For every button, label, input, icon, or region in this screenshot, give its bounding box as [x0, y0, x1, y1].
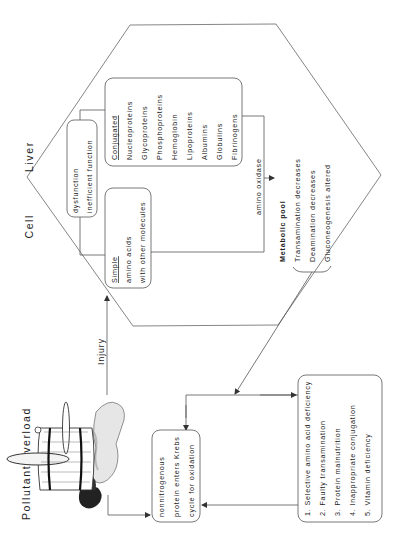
simple-line-2: with other molecules: [138, 201, 147, 284]
inefficient-function-text: inefficient function: [85, 140, 94, 213]
metabolic-pool-item: Transamination decreases: [293, 158, 302, 262]
conjugated-item: Phosphoproteins: [155, 94, 164, 160]
deficiency-item: 4. Inappropriate conjugation: [348, 404, 357, 516]
dysfunction-text: dysfunction: [71, 168, 80, 213]
metabolic-pool-bracket: [293, 266, 331, 272]
conjugated-item: Glycoproteins: [140, 106, 149, 160]
cell-label: Cell: [23, 214, 35, 239]
diagram-canvas: Liver Cell dysfunction inefficient funct…: [0, 0, 400, 534]
dysfunction-to-conjugated-connector: [80, 110, 106, 120]
deficiency-item: 2. Faulty transamination: [318, 420, 327, 516]
deficiency-item: 1. Selective amino acid deficiency: [303, 381, 312, 516]
krebs-line-3: cycle for oxidation: [187, 444, 196, 517]
krebs-line-1: nonnitrogenous: [157, 456, 166, 517]
dysfunction-to-simple-connector: [80, 217, 106, 255]
liver-label: Liver: [23, 141, 35, 172]
deficiency-item: 3. Protein malnutrition: [333, 428, 342, 516]
conjugated-heading: Conjugated: [110, 115, 119, 160]
liver-cell-label: Liver Cell: [23, 141, 35, 238]
deficiency-item: 5. Vitamin deficiency: [363, 433, 372, 516]
injury-label: Injury: [96, 338, 106, 365]
junction-connector: [186, 395, 300, 418]
barrel-to-krebs-arrow: [108, 495, 150, 515]
krebs-line-2: protein enters Krebs: [172, 436, 181, 517]
conjugated-item: Albumins: [200, 124, 209, 160]
conjugated-item: Nucleoproteins: [125, 101, 134, 160]
metabolic-pool-heading: Metabolic pool: [278, 200, 287, 262]
pool-to-junction-arrow: [235, 272, 312, 394]
conjugated-item: Fibrinogens: [230, 114, 239, 160]
conjugated-item: Lipoproteins: [185, 111, 194, 160]
simple-line-1: amino acids: [124, 236, 133, 283]
conjugated-item: Hemoglobin: [170, 114, 179, 160]
metabolic-pool-item: Deamination decreases: [308, 170, 317, 262]
metabolic-pool-item: Gluconeogenesis altered: [323, 164, 332, 262]
amino-oxidase-label: amino oxidase: [254, 158, 263, 215]
conjugated-item: Globulins: [215, 123, 224, 160]
metabolic-pool-group: Metabolic pool Transamination decreases …: [278, 158, 332, 262]
simple-heading: Simple: [110, 256, 119, 283]
